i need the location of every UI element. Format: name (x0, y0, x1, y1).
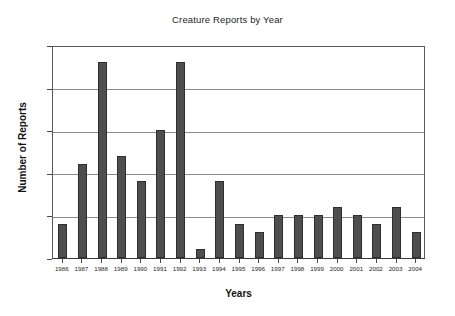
y-tick-mark (47, 46, 52, 47)
bar-2003 (392, 207, 401, 258)
bar-1989 (117, 156, 126, 258)
x-tick-mark (297, 259, 298, 263)
x-tick-mark (396, 259, 397, 263)
x-axis-title: Years (52, 288, 425, 299)
y-tick-mark (47, 216, 52, 217)
bar-1995 (235, 224, 244, 258)
x-tick-mark (278, 259, 279, 263)
y-tick-mark (47, 174, 52, 175)
bar-2000 (333, 207, 342, 258)
x-tick-mark (376, 259, 377, 263)
bar-2002 (372, 224, 381, 258)
x-tick-mark (160, 259, 161, 263)
bar-1997 (274, 215, 283, 258)
x-tick-mark (121, 259, 122, 263)
y-tick-mark (47, 131, 52, 132)
x-tick-mark (62, 259, 63, 263)
bar-1990 (137, 181, 146, 258)
x-tick-mark (101, 259, 102, 263)
y-tick-mark (47, 89, 52, 90)
x-tick-mark (140, 259, 141, 263)
bar-1992 (176, 62, 185, 258)
bar-1988 (98, 62, 107, 258)
x-tick-mark (356, 259, 357, 263)
bar-1987 (78, 164, 87, 258)
bar-1994 (215, 181, 224, 258)
x-tick-mark (180, 259, 181, 263)
bar-1999 (314, 215, 323, 258)
bar-1996 (255, 232, 264, 258)
x-tick-mark (258, 259, 259, 263)
x-tick-label: 2004 (401, 265, 429, 272)
bar-1991 (156, 130, 165, 258)
bar-chart-figure: Creature Reports by Year Number of Repor… (0, 0, 455, 316)
chart-title: Creature Reports by Year (0, 14, 455, 25)
bar-1993 (196, 249, 205, 258)
x-tick-mark (199, 259, 200, 263)
x-tick-mark (317, 259, 318, 263)
bar-1998 (294, 215, 303, 258)
bars-series (53, 47, 424, 258)
x-tick-mark (239, 259, 240, 263)
x-tick-mark (81, 259, 82, 263)
x-tick-mark (337, 259, 338, 263)
y-tick-mark (47, 259, 52, 260)
bar-1986 (58, 224, 67, 258)
plot-area (52, 46, 425, 259)
x-tick-mark (415, 259, 416, 263)
y-axis-title: Number of Reports (17, 78, 28, 218)
bar-2004 (412, 232, 421, 258)
x-tick-mark (219, 259, 220, 263)
bar-2001 (353, 215, 362, 258)
